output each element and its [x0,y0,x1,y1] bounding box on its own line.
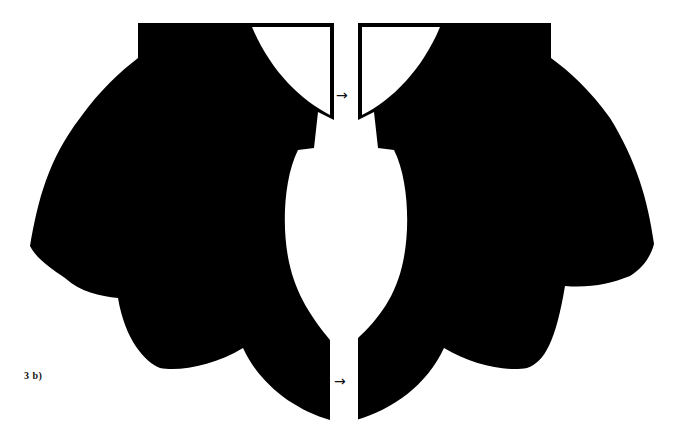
figure-label: 3 b) [24,370,42,381]
grain-arrow-top-icon: → [336,88,348,102]
grain-arrow-bottom-icon: → [334,374,346,388]
